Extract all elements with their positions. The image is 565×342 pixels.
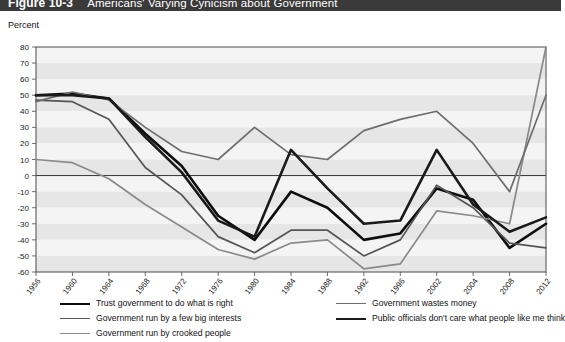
legend-column-right: Government wastes moneyPublic officials …	[336, 296, 565, 326]
svg-text:2008: 2008	[498, 276, 516, 296]
legend-item[interactable]: Trust government to do what is right	[60, 296, 241, 311]
legend-item[interactable]: Public officials don't care what people …	[336, 311, 565, 326]
legend-label: Government run by a few big interests	[96, 314, 241, 323]
svg-text:1984: 1984	[280, 276, 298, 296]
svg-text:0: 0	[25, 172, 30, 181]
legend-label: Government run by crooked people	[96, 329, 231, 338]
legend-item[interactable]: Government wastes money	[336, 296, 565, 311]
legend-label: Public officials don't care what people …	[372, 314, 565, 323]
svg-text:1972: 1972	[170, 276, 188, 296]
svg-text:-40: -40	[17, 236, 29, 245]
svg-text:60: 60	[20, 75, 29, 84]
svg-text:2004: 2004	[462, 276, 480, 296]
x-axis-tick-labels: 1956196019641968197219761980198419881992…	[25, 276, 553, 296]
legend-column-left: Trust government to do what is rightGove…	[60, 296, 241, 341]
svg-text:-10: -10	[17, 188, 29, 197]
legend-swatch	[336, 318, 366, 320]
legend-swatch	[60, 333, 90, 334]
svg-text:1992: 1992	[352, 276, 370, 296]
svg-text:40: 40	[20, 107, 29, 116]
svg-text:10: 10	[20, 156, 29, 165]
y-axis-tick-labels: 80706050403020100-10-20-30-40-50-60	[17, 43, 29, 277]
svg-text:1956: 1956	[25, 276, 43, 296]
svg-text:2002: 2002	[425, 276, 443, 296]
legend-label: Trust government to do what is right	[96, 299, 233, 308]
svg-text:-20: -20	[17, 204, 29, 213]
svg-text:-60: -60	[17, 268, 29, 277]
line-chart: 80706050403020100-10-20-30-40-50-60 1956…	[0, 0, 561, 300]
svg-text:-30: -30	[17, 220, 29, 229]
svg-text:70: 70	[20, 59, 29, 68]
svg-text:30: 30	[20, 123, 29, 132]
svg-text:1980: 1980	[243, 276, 261, 296]
legend-swatch	[60, 318, 90, 319]
svg-text:1968: 1968	[134, 276, 152, 296]
legend-swatch	[336, 303, 366, 304]
chart-legend: Trust government to do what is rightGove…	[0, 296, 561, 342]
svg-text:20: 20	[20, 139, 29, 148]
legend-item[interactable]: Government run by crooked people	[60, 326, 241, 341]
legend-label: Government wastes money	[372, 299, 477, 308]
svg-text:50: 50	[20, 91, 29, 100]
background-bands	[36, 47, 546, 272]
svg-text:1964: 1964	[97, 276, 115, 296]
svg-text:1976: 1976	[207, 276, 225, 296]
svg-text:1960: 1960	[61, 276, 79, 296]
svg-text:2012: 2012	[535, 276, 553, 296]
svg-text:1988: 1988	[316, 276, 334, 296]
x-axis-ticks	[36, 272, 546, 276]
svg-text:80: 80	[20, 43, 29, 52]
legend-swatch	[60, 303, 90, 305]
svg-text:1996: 1996	[389, 276, 407, 296]
svg-text:-50: -50	[17, 252, 29, 261]
legend-item[interactable]: Government run by a few big interests	[60, 311, 241, 326]
